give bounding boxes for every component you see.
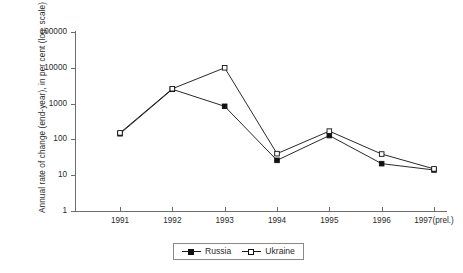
x-axis-line [75, 211, 447, 212]
x-tick-label: 1996 [373, 216, 391, 225]
legend-item-russia[interactable]: Russia [182, 247, 231, 256]
y-tick-label: 10 [7, 171, 67, 179]
data-point-ukraine [327, 129, 332, 134]
y-tick-label: 1 [7, 207, 67, 215]
data-point-ukraine [222, 66, 227, 71]
chart-legend: RussiaUkraine [173, 243, 304, 260]
chart-container: Annual rate of change (end-year), in per… [0, 0, 463, 273]
x-tick-mark [277, 207, 278, 212]
chart-series-layer [0, 0, 463, 273]
y-tick-mark [71, 32, 76, 33]
legend-marker-icon [182, 248, 201, 256]
legend-key-square-icon [188, 249, 194, 255]
y-tick-mark [71, 104, 76, 105]
x-tick-mark [329, 207, 330, 212]
x-tick-label: 1997(prel.) [414, 216, 454, 225]
y-axis-line [75, 31, 76, 212]
y-tick-mark [71, 175, 76, 176]
data-point-ukraine [118, 131, 123, 136]
x-tick-mark [434, 207, 435, 212]
x-tick-mark [172, 207, 173, 212]
data-point-russia [222, 104, 227, 109]
data-point-ukraine [379, 152, 384, 157]
x-tick-mark [382, 207, 383, 212]
x-tick-label: 1995 [320, 216, 338, 225]
data-point-russia [170, 87, 175, 92]
legend-label: Russia [204, 247, 231, 256]
data-point-russia [118, 131, 123, 136]
legend-key-square-icon [248, 249, 254, 255]
series-line-russia [120, 89, 434, 170]
x-tick-mark [225, 207, 226, 212]
data-point-russia [379, 161, 384, 166]
x-tick-label: 1994 [268, 216, 286, 225]
data-point-russia [327, 133, 332, 138]
y-tick-label: 100000 [7, 28, 67, 36]
y-tick-mark [71, 139, 76, 140]
y-tick-label: 10000 [7, 64, 67, 72]
y-tick-label: 100 [7, 135, 67, 143]
legend-marker-icon [242, 248, 261, 256]
data-point-russia [275, 158, 280, 163]
series-line-ukraine [120, 68, 434, 169]
legend-label: Ukraine [264, 247, 295, 256]
y-tick-mark [71, 211, 76, 212]
x-tick-label: 1991 [111, 216, 129, 225]
legend-item-ukraine[interactable]: Ukraine [242, 247, 295, 256]
data-point-russia [432, 168, 437, 173]
data-point-ukraine [432, 167, 437, 172]
x-tick-label: 1993 [216, 216, 234, 225]
x-tick-label: 1992 [163, 216, 181, 225]
y-tick-label: 1000 [7, 100, 67, 108]
data-point-ukraine [170, 86, 175, 91]
data-point-ukraine [275, 151, 280, 156]
y-tick-mark [71, 68, 76, 69]
x-tick-mark [120, 207, 121, 212]
